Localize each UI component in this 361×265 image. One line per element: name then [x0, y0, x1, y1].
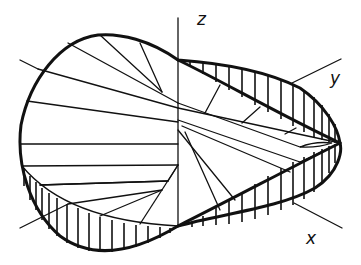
y-axis-label: y [329, 68, 341, 88]
surface-diagram: z y x [0, 0, 361, 265]
outer-boundary-curve [20, 35, 341, 251]
surface-boundary [20, 35, 341, 251]
inner-edge-lower [178, 143, 340, 226]
z-axis-label: z [196, 9, 207, 29]
hatched-band-bottom-left [24, 168, 170, 252]
ruling-lines-left [20, 35, 178, 224]
neg-x-axis [20, 60, 38, 69]
x-axis-label: x [305, 228, 317, 248]
x-axis [294, 203, 342, 228]
